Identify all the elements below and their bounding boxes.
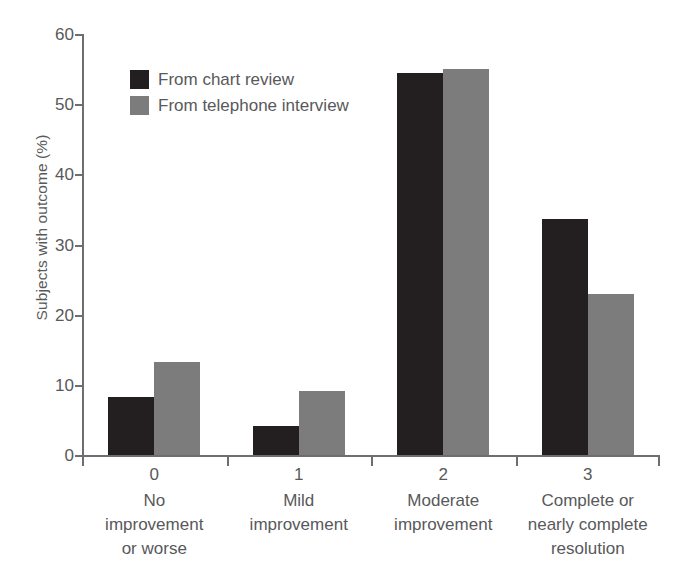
x-tick-mark xyxy=(516,457,518,466)
y-tick-mark xyxy=(75,104,82,106)
x-tick-mark xyxy=(82,457,84,466)
y-tick-mark xyxy=(75,34,82,36)
y-tick-label: 60 xyxy=(36,26,74,43)
x-axis-label-line: Moderate xyxy=(371,489,516,513)
x-axis-label-line: improvement xyxy=(371,513,516,537)
y-tick-label: 50 xyxy=(36,96,74,113)
x-axis-label-line: improvement xyxy=(82,513,227,537)
x-axis-label-group: 3Complete ornearly completeresolution xyxy=(516,463,661,562)
x-axis-label-line: or worse xyxy=(82,537,227,561)
bar xyxy=(108,397,154,455)
bar-chart: Subjects with outcome (%) 0102030405060 … xyxy=(0,0,685,585)
bar xyxy=(588,294,634,455)
y-tick-mark xyxy=(75,455,82,457)
bar xyxy=(154,362,200,455)
legend-item-label: From chart review xyxy=(158,71,294,88)
bar xyxy=(253,426,299,455)
y-tick-label: 0 xyxy=(36,447,74,464)
bar xyxy=(542,219,588,455)
legend-item-label: From telephone interview xyxy=(158,97,349,114)
legend: From chart reviewFrom telephone intervie… xyxy=(130,69,349,116)
x-axis-label-group: 1Mildimprovement xyxy=(227,463,372,537)
x-axis-category-labels: 0Noimprovementor worse1Mildimprovement2M… xyxy=(82,463,660,585)
x-axis-tick-number: 1 xyxy=(227,463,372,487)
y-axis-tick-labels: 0102030405060 xyxy=(28,0,74,585)
dark-square-swatch xyxy=(130,70,149,89)
y-tick-label: 30 xyxy=(36,236,74,253)
bar-group xyxy=(397,34,489,455)
x-tick-mark xyxy=(658,457,660,466)
x-axis-tick-number: 2 xyxy=(371,463,516,487)
legend-item: From telephone interview xyxy=(130,95,349,116)
x-axis-tick-number: 0 xyxy=(82,463,227,487)
x-axis-label-line: improvement xyxy=(227,513,372,537)
bar xyxy=(443,69,489,455)
bar-group xyxy=(542,34,634,455)
x-axis-label-line: No xyxy=(82,489,227,513)
x-tick-mark xyxy=(371,457,373,466)
y-tick-mark xyxy=(75,385,82,387)
x-axis-tick-number: 3 xyxy=(516,463,661,487)
y-tick-mark xyxy=(75,174,82,176)
y-tick-mark xyxy=(75,315,82,317)
x-axis-label-group: 0Noimprovementor worse xyxy=(82,463,227,562)
bar xyxy=(397,73,443,455)
x-axis-label-group: 2Moderateimprovement xyxy=(371,463,516,537)
x-axis-label-line: Complete or xyxy=(516,489,661,513)
legend-item: From chart review xyxy=(130,69,349,90)
x-axis-label-line: nearly complete xyxy=(516,513,661,537)
bar xyxy=(299,391,345,455)
gray-square-swatch xyxy=(130,96,149,115)
y-tick-label: 10 xyxy=(36,376,74,393)
y-tick-label: 20 xyxy=(36,306,74,323)
x-axis-label-line: Mild xyxy=(227,489,372,513)
x-tick-mark xyxy=(227,457,229,466)
y-tick-mark xyxy=(75,245,82,247)
x-axis-label-line: resolution xyxy=(516,537,661,561)
y-tick-label: 40 xyxy=(36,166,74,183)
y-axis-line xyxy=(82,34,84,455)
